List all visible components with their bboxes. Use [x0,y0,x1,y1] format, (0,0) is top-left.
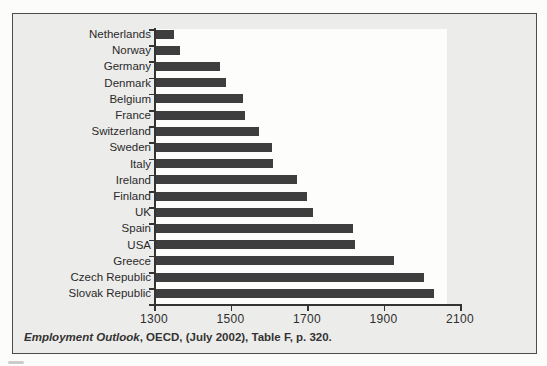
category-label: Sweden [13,142,151,153]
bar-row: Sweden [13,143,536,152]
scanned-page: NetherlandsNorwayGermanyDenmarkBelgiumFr… [0,0,547,366]
bar [156,111,245,120]
bar [156,62,220,71]
category-label: Denmark [13,77,151,88]
bar [156,256,394,265]
bar-row: Ireland [13,175,536,184]
x-axis-tick-label: 1500 [206,312,256,326]
category-label: Norway [13,45,151,56]
bar-row: Denmark [13,78,536,87]
bar-row: Switzerland [13,127,536,136]
category-label: Ireland [13,174,151,185]
category-label: Netherlands [13,29,151,40]
bar [156,224,353,233]
category-label: Switzerland [13,126,151,137]
bar-row: Norway [13,46,536,55]
source-caption-rest: , OECD, (July 2002), Table F, p. 320. [140,331,332,343]
bar-row: Finland [13,192,536,201]
bar-row: France [13,111,536,120]
category-label: Spain [13,223,151,234]
bar [156,175,297,184]
bar-row: Greece [13,256,536,265]
x-axis-tick-label: 1700 [282,312,332,326]
x-axis-tick-label: 2100 [435,312,485,326]
x-axis-tick-label: 1900 [359,312,409,326]
bar-row: Netherlands [13,30,536,39]
bar-row: Germany [13,62,536,71]
category-label: UK [13,207,151,218]
bar [156,78,226,87]
bar [156,127,259,136]
bar-row: Italy [13,159,536,168]
bar-row: Spain [13,224,536,233]
page-artifact [8,361,24,364]
bar [156,289,434,298]
category-label: Belgium [13,93,151,104]
x-axis-tick [460,306,462,311]
bar [156,94,243,103]
source-caption-title: Employment Outlook [24,331,140,343]
category-label: Germany [13,61,151,72]
bar [156,273,424,282]
x-axis-tick [154,306,156,311]
bar [156,208,313,217]
bar-row: UK [13,208,536,217]
y-axis-line [154,28,156,305]
category-label: Slovak Republic [13,288,151,299]
bar [156,240,355,249]
x-axis-tick [384,306,386,311]
x-axis-tick [231,306,233,311]
category-label: Italy [13,158,151,169]
source-caption: Employment Outlook, OECD, (July 2002), T… [24,331,332,343]
bar [156,46,180,55]
bar-row: USA [13,240,536,249]
bar-row: Slovak Republic [13,289,536,298]
category-label: Czech Republic [13,272,151,283]
category-label: France [13,110,151,121]
x-axis-tick-label: 1300 [129,312,179,326]
bar [156,159,273,168]
bar-row: Czech Republic [13,273,536,282]
bar-row: Belgium [13,94,536,103]
x-axis-tick [307,306,309,311]
figure-box: NetherlandsNorwayGermanyDenmarkBelgiumFr… [12,13,537,354]
category-label: Greece [13,255,151,266]
bar [156,30,174,39]
category-label: USA [13,239,151,250]
category-label: Finland [13,191,151,202]
bar [156,192,307,201]
bar [156,143,272,152]
